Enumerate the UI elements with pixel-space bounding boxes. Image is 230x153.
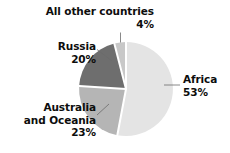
pie-label-all-other-countries: All other countries 4% bbox=[16, 5, 154, 30]
pie-label-australia-and-oceania: Australia and Oceania 23% bbox=[2, 101, 96, 139]
pie-label-russia-percent: 20% bbox=[14, 53, 96, 66]
pie-label-australia-and-oceania-percent: 23% bbox=[2, 126, 96, 139]
pie-chart-figure: All other countries 4% Russia 20% Austra… bbox=[0, 0, 230, 153]
pie-label-all-other-countries-text: All other countries bbox=[46, 5, 154, 17]
pie-label-australia-and-oceania-line1: Australia bbox=[43, 101, 96, 113]
pie-label-africa-percent: 53% bbox=[183, 86, 230, 99]
pie-label-africa: Africa 53% bbox=[183, 73, 230, 98]
pie-label-africa-text: Africa bbox=[183, 73, 217, 85]
pie-label-russia: Russia 20% bbox=[14, 40, 96, 65]
pie-label-russia-text: Russia bbox=[58, 40, 96, 52]
pie-label-all-other-countries-percent: 4% bbox=[16, 18, 154, 31]
pie-label-australia-and-oceania-line2: and Oceania bbox=[2, 114, 96, 127]
